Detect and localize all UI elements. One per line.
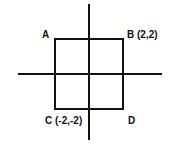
label-point-c: C (-2,-2)	[45, 115, 82, 126]
label-point-d: D	[128, 115, 135, 126]
label-point-a: A	[42, 29, 49, 40]
label-point-b: B (2,2)	[127, 29, 158, 40]
coordinate-diagram: A B (2,2) C (-2,-2) D	[0, 0, 171, 150]
